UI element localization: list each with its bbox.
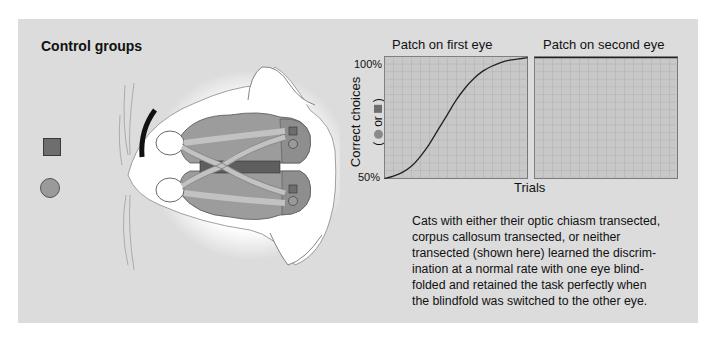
cat-brain-illustration: [100, 55, 340, 275]
right-eye: [156, 178, 184, 202]
figure-caption: Cats with either their optic chiasm tran…: [412, 213, 672, 309]
cortex-square-left: [289, 127, 297, 135]
square-icon: [374, 105, 382, 113]
x-axis-label: Trials: [514, 180, 545, 195]
learning-curves-chart: [384, 56, 680, 180]
chart-right-plot: [535, 57, 678, 179]
y-tick-100: 100%: [354, 58, 382, 70]
y-tick-50: 50%: [358, 171, 380, 183]
circle-icon: [374, 130, 383, 139]
cortex-square-right: [289, 185, 297, 193]
square-stimulus-icon: [43, 138, 61, 156]
left-eye: [156, 131, 184, 155]
cortex-circle-left: [289, 140, 298, 149]
chart-right-title: Patch on second eye: [543, 37, 664, 52]
cortex-circle-right: [289, 197, 298, 206]
chart-left-plot: [385, 57, 528, 179]
circle-stimulus-icon: [40, 178, 60, 198]
chart-left-title: Patch on first eye: [392, 37, 492, 52]
figure-title: Control groups: [41, 38, 142, 54]
